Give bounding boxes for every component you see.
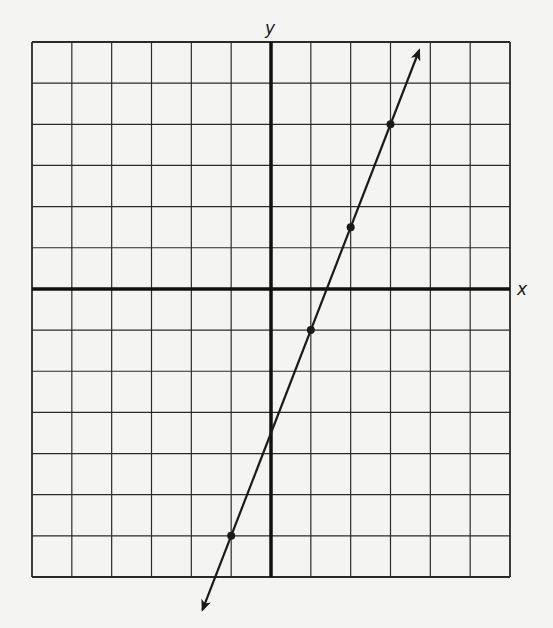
coordinate-plane (0, 0, 553, 628)
data-point (347, 223, 355, 231)
data-point (227, 532, 235, 540)
x-axis-label: x (517, 279, 527, 299)
axes (32, 42, 510, 577)
data-point (387, 120, 395, 128)
data-point (307, 326, 315, 334)
y-axis-label: y (265, 18, 275, 38)
